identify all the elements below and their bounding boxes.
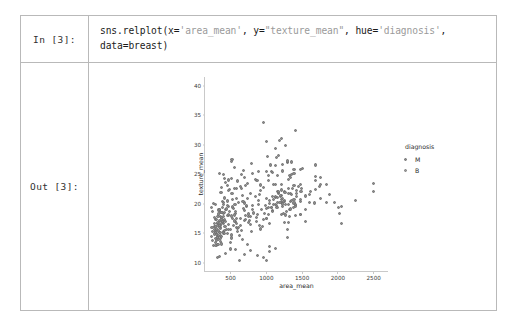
scatter-point [235, 197, 238, 200]
scatter-point [291, 187, 294, 190]
scatter-point [292, 206, 295, 209]
scatter-point [216, 243, 219, 246]
scatter-point [299, 213, 302, 216]
notebook-input-cell: In [3]: sns.relplot(x='area_mean', y="te… [21, 16, 496, 63]
scatter-point [257, 170, 260, 173]
scatter-point [241, 194, 244, 197]
scatter-point [230, 233, 233, 236]
scatter-point [314, 175, 317, 178]
scatter-point [266, 155, 269, 158]
scatter-point [223, 225, 226, 228]
scatter-point [241, 238, 244, 241]
scatter-point [340, 222, 343, 225]
legend-marker-icon-m [404, 158, 407, 161]
scatter-point [254, 195, 257, 198]
scatter-point [210, 226, 213, 229]
scatter-point [247, 221, 250, 224]
scatter-point [233, 166, 236, 169]
scatter-point [233, 203, 236, 206]
scatter-point [267, 179, 270, 182]
scatter-point [249, 192, 252, 195]
scatter-point [319, 176, 322, 179]
legend-item-m[interactable]: M [404, 154, 474, 165]
scatter-point [223, 232, 226, 235]
scatter-point [274, 164, 277, 167]
input-cell-body[interactable]: sns.relplot(x='area_mean', y="texture_me… [89, 16, 496, 62]
y-tick-mark [203, 115, 206, 116]
scatter-point [224, 181, 227, 184]
scatter-point [240, 173, 243, 176]
scatter-point [257, 199, 260, 202]
relplot-figure: area_mean texture_mean 10152025303540500… [89, 63, 497, 310]
scatter-point [220, 235, 223, 238]
scatter-point [257, 203, 260, 206]
code-token-hue-key: , hue= [344, 25, 378, 36]
scatter-point [237, 201, 240, 204]
scatter-point [292, 168, 295, 171]
legend-label-m: M [415, 156, 420, 163]
scatter-point [230, 236, 233, 239]
scatter-point [226, 232, 229, 235]
scatter-point [267, 206, 270, 209]
scatter-point [236, 230, 239, 233]
legend: diagnosis M B [404, 143, 474, 176]
scatter-point [220, 186, 223, 189]
scatter-point [211, 210, 214, 213]
scatter-point [221, 220, 224, 223]
scatter-point [319, 197, 322, 200]
scatter-point [258, 193, 261, 196]
scatter-point [281, 169, 284, 172]
scatter-point [274, 147, 277, 150]
code-token-hue-value: 'diagnosis' [378, 25, 440, 36]
scatter-point [249, 223, 252, 226]
scatter-point [210, 206, 213, 209]
scatter-point [276, 174, 279, 177]
legend-item-b[interactable]: B [404, 165, 474, 176]
scatter-point [229, 228, 232, 231]
x-tick-mark [230, 271, 231, 274]
scatter-point [299, 190, 302, 193]
scatter-point [290, 173, 293, 176]
scatter-point [308, 193, 311, 196]
scatter-point [265, 217, 268, 220]
x-tick-mark [302, 271, 303, 274]
y-tick-mark [203, 233, 206, 234]
scatter-point [268, 202, 271, 205]
scatter-point [299, 198, 302, 201]
scatter-point [218, 255, 221, 258]
scatter-point [294, 214, 297, 217]
scatter-point [238, 259, 241, 262]
code-editor[interactable]: sns.relplot(x='area_mean', y="texture_me… [89, 16, 496, 53]
scatter-point [372, 182, 375, 185]
scatter-point [235, 187, 238, 190]
scatter-point [230, 192, 233, 195]
scatter-point [217, 212, 220, 215]
screenshot-root: In [3]: sns.relplot(x='area_mean', y="te… [0, 0, 519, 325]
scatter-point [255, 220, 258, 223]
code-line-2: data=breast) [100, 40, 168, 51]
scatter-point [231, 198, 234, 201]
scatter-point [241, 200, 244, 203]
scatter-point [274, 247, 277, 250]
code-token-x-value: 'area_mean' [179, 25, 241, 36]
scatter-point [262, 121, 265, 124]
scatter-point [284, 144, 287, 147]
scatter-point [259, 189, 262, 192]
scatter-point [224, 220, 227, 223]
scatter-point [268, 222, 271, 225]
scatter-point [333, 201, 336, 204]
scatter-point [267, 213, 270, 216]
scatter-point [210, 235, 213, 238]
code-token-y-value: "texture_mean" [265, 25, 344, 36]
scatter-point [229, 241, 232, 244]
scatter-point [265, 197, 268, 200]
code-token-call: sns.relplot(x= [100, 25, 179, 36]
scatter-point [249, 249, 252, 252]
x-tick-mark [373, 271, 374, 274]
scatter-point [262, 218, 265, 221]
y-tick-mark [203, 262, 206, 263]
scatter-point [233, 213, 236, 216]
scatter-point [283, 221, 286, 224]
scatter-point [250, 162, 253, 165]
scatter-point [275, 206, 278, 209]
